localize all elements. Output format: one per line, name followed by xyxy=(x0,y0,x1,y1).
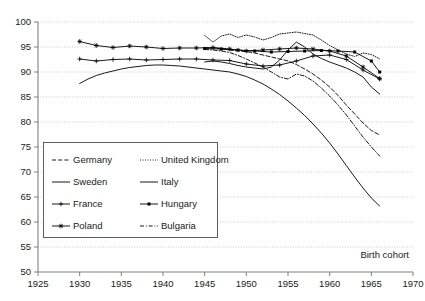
data-point-marker xyxy=(59,224,64,229)
data-point-marker xyxy=(287,50,290,53)
legend-label: Bulgaria xyxy=(161,220,197,231)
data-point-marker xyxy=(161,46,166,51)
y-tick-label: 100 xyxy=(15,16,31,27)
data-point-marker xyxy=(294,46,299,51)
data-point-marker xyxy=(227,58,232,63)
y-tick-labels: 50556065707580859095100 xyxy=(15,16,31,277)
y-tick-label: 70 xyxy=(20,166,31,177)
data-point-marker xyxy=(303,50,306,53)
data-point-marker xyxy=(211,45,216,50)
y-tick-label: 55 xyxy=(20,241,31,252)
data-point-marker xyxy=(327,49,332,54)
data-point-marker xyxy=(270,51,273,54)
legend-label: Poland xyxy=(73,220,103,231)
data-point-marker xyxy=(111,57,116,62)
legend-label: Italy xyxy=(161,176,179,187)
data-point-marker xyxy=(111,45,116,50)
data-point-marker xyxy=(127,44,132,49)
data-point-marker xyxy=(94,59,99,64)
data-point-marker xyxy=(144,58,149,63)
data-point-marker xyxy=(277,47,282,52)
data-point-marker xyxy=(361,65,366,70)
y-tick-label: 60 xyxy=(20,216,31,227)
x-axis-title: Birth cohort xyxy=(360,249,409,260)
data-point-marker xyxy=(337,50,340,53)
x-tick-labels: 1925193019351940194519501955196019651970 xyxy=(27,278,423,289)
legend-label: Hungary xyxy=(161,198,197,209)
data-point-marker xyxy=(244,49,249,54)
x-tick-label: 1965 xyxy=(361,278,382,289)
data-point-marker xyxy=(77,57,82,62)
y-tick-label: 80 xyxy=(20,116,31,127)
legend-label: France xyxy=(73,198,103,209)
legend-label: United Kingdom xyxy=(161,154,229,165)
data-point-marker xyxy=(94,43,99,48)
data-point-marker xyxy=(377,76,382,81)
legend-label: Sweden xyxy=(73,176,107,187)
chart-container: 50556065707580859095100 1925193019351940… xyxy=(0,0,425,301)
data-point-marker xyxy=(177,46,182,51)
data-point-marker xyxy=(294,59,299,64)
data-point-marker xyxy=(344,54,349,59)
data-point-marker xyxy=(194,46,199,51)
y-tick-label: 85 xyxy=(20,91,31,102)
x-tick-label: 1935 xyxy=(111,278,132,289)
data-point-marker xyxy=(311,47,316,52)
data-point-marker xyxy=(327,53,332,58)
x-tick-label: 1945 xyxy=(194,278,215,289)
y-tick-marks xyxy=(34,22,38,272)
data-point-marker xyxy=(177,57,182,62)
data-point-marker xyxy=(148,203,151,206)
x-tick-label: 1955 xyxy=(277,278,298,289)
data-point-marker xyxy=(161,57,166,62)
y-tick-label: 95 xyxy=(20,41,31,52)
x-tick-label: 1925 xyxy=(27,278,48,289)
chart-legend: GermanyUnited KingdomSwedenItalyFranceHu… xyxy=(44,143,229,238)
legend-label: Germany xyxy=(73,154,112,165)
data-point-marker xyxy=(353,51,356,54)
data-point-marker xyxy=(194,57,199,62)
y-tick-label: 50 xyxy=(20,266,31,277)
data-point-marker xyxy=(244,62,249,67)
data-point-marker xyxy=(127,57,132,62)
x-tick-label: 1950 xyxy=(236,278,257,289)
x-tick-label: 1930 xyxy=(69,278,90,289)
data-point-marker xyxy=(144,45,149,50)
y-tick-label: 75 xyxy=(20,141,31,152)
data-point-marker xyxy=(77,39,82,44)
y-tick-label: 65 xyxy=(20,191,31,202)
data-point-marker xyxy=(370,60,373,63)
data-point-marker xyxy=(227,47,232,52)
x-tick-label: 1960 xyxy=(319,278,340,289)
x-tick-label: 1940 xyxy=(152,278,173,289)
data-point-marker xyxy=(261,48,266,53)
y-tick-label: 90 xyxy=(20,66,31,77)
x-tick-marks xyxy=(38,272,413,276)
x-tick-label: 1970 xyxy=(402,278,423,289)
line-chart: 50556065707580859095100 1925193019351940… xyxy=(0,0,425,301)
data-point-marker xyxy=(277,63,282,68)
series-line xyxy=(205,50,380,157)
data-point-marker xyxy=(378,71,381,74)
